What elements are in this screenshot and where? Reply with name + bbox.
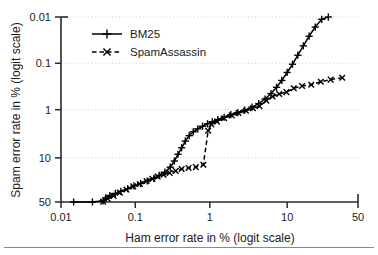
- spam-ham-error-rate-chart: 0.010.111050 0.010.111050 BM25SpamAssass…: [0, 0, 378, 255]
- y-axis-title: Spam error rate in % (logit scale): [9, 22, 23, 197]
- x-tick-label: 0.1: [128, 211, 143, 223]
- x-axis-title: Ham error rate in % (logit scale): [125, 231, 294, 245]
- x-tick-label: 50: [352, 211, 364, 223]
- y-tick-label: 50: [39, 196, 51, 208]
- y-tick-label: 0.01: [30, 11, 51, 23]
- x-tick-label: 0.01: [50, 211, 71, 223]
- legend-label: SpamAssassin: [130, 46, 206, 58]
- x-tick-label: 1: [207, 211, 213, 223]
- figure-container: 0.010.111050 0.010.111050 BM25SpamAssass…: [0, 0, 378, 255]
- footer-divider: [4, 247, 374, 248]
- y-tick-label: 0.1: [36, 57, 51, 69]
- y-tick-label: 10: [39, 152, 51, 164]
- x-tick-label: 10: [281, 211, 293, 223]
- legend-label: BM25: [130, 28, 160, 40]
- y-tick-label: 1: [45, 104, 51, 116]
